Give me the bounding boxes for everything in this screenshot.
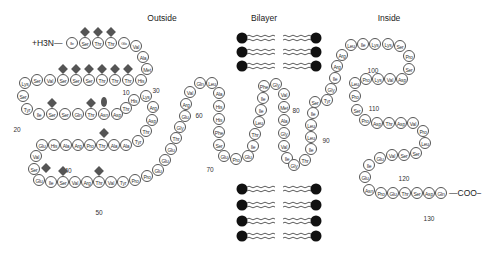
lipid-tail	[283, 49, 311, 51]
residue: Thr	[105, 37, 117, 49]
residue: Thr	[85, 108, 97, 120]
residue: Arg	[331, 60, 343, 72]
residue: Lys	[382, 38, 394, 50]
lipid-tail	[247, 186, 275, 188]
lipid-tail	[283, 233, 311, 235]
residue: Glu	[179, 110, 191, 122]
residue: Ala	[108, 139, 120, 151]
lipid-tail	[283, 35, 311, 37]
residue: Gln	[72, 108, 84, 120]
residue-number-label: 60	[195, 112, 202, 119]
residue: Glu	[387, 187, 399, 199]
residue: Glu	[374, 152, 386, 164]
residue: Glu	[159, 154, 171, 166]
residue: Arg	[72, 139, 84, 151]
residue: Ile	[45, 176, 57, 188]
lipid-head	[237, 216, 248, 227]
residue: Asp	[146, 114, 158, 126]
lipid-tail	[247, 67, 275, 69]
residue: His	[213, 113, 225, 125]
residue: Ser	[17, 90, 29, 102]
residue: Leu	[345, 39, 357, 51]
lipid-tail	[283, 67, 311, 69]
residue: Tyr	[132, 135, 144, 147]
residue: Leu	[419, 137, 431, 149]
lipid-head	[237, 184, 248, 195]
residue: Leu	[349, 77, 361, 89]
residue: Glx	[118, 37, 130, 49]
lipid-tail	[283, 63, 311, 65]
lipid-head	[237, 200, 248, 211]
residue: His	[48, 139, 60, 151]
residue: Ile	[307, 107, 319, 119]
residue: Val	[130, 40, 142, 52]
lipid-tail	[247, 202, 275, 204]
residue-number-label: 30	[152, 87, 159, 94]
residue: Ser	[83, 74, 95, 86]
residue: Ser	[411, 187, 423, 199]
residue: Ala	[213, 87, 225, 99]
residue: Asn	[363, 184, 375, 196]
residue: Lys	[140, 90, 152, 102]
lipid-head	[311, 184, 322, 195]
residue: Glu	[33, 174, 45, 186]
residue: Ser	[410, 147, 422, 159]
residue: Ile	[33, 108, 45, 120]
n-glycan-oval-icon	[101, 97, 107, 107]
residue: Ile	[255, 104, 267, 116]
residue: Glu	[165, 143, 177, 155]
residue: Met	[141, 63, 153, 75]
residue: Ile	[66, 37, 78, 49]
residue: Glu	[152, 164, 164, 176]
residue: Leu	[305, 119, 317, 131]
residue: Lys	[372, 73, 384, 85]
residue: Val	[384, 73, 396, 85]
residue: Pro	[375, 187, 387, 199]
residue: Ile	[357, 38, 369, 50]
lipid-tail	[247, 49, 275, 51]
residue-number-label: 100	[368, 67, 379, 74]
residue: Ser	[398, 149, 410, 161]
residue: Ser	[79, 37, 91, 49]
residue: Pro	[230, 153, 242, 165]
residue: Thr	[383, 117, 395, 129]
residue: Asp	[396, 73, 408, 85]
lipid-head	[311, 33, 322, 44]
residue: Ala	[278, 114, 290, 126]
residue: Pro	[417, 125, 429, 137]
lipid-tail	[247, 53, 275, 55]
residue-number-label: 90	[322, 137, 329, 144]
residue: Ala	[137, 51, 149, 63]
residue: Glu	[218, 150, 230, 162]
lipid-head	[237, 33, 248, 44]
residue: Pro	[141, 170, 153, 182]
residue: Asp	[371, 117, 383, 129]
lipid-tail	[247, 237, 275, 239]
residue: Pro	[359, 114, 371, 126]
residue: Ile	[305, 143, 317, 155]
lipid-tail	[247, 190, 275, 192]
residue: Gly	[174, 121, 186, 133]
residue: Val	[184, 86, 196, 98]
residue: Thr	[122, 74, 134, 86]
residue: Lys	[369, 38, 381, 50]
lipid-tail	[247, 222, 275, 224]
residue: Pro	[84, 139, 96, 151]
residue: Thr	[249, 128, 261, 140]
residue: Tyr	[321, 94, 333, 106]
lipid-tail	[283, 190, 311, 192]
residue: Pro	[349, 90, 361, 102]
residue: Val	[278, 140, 290, 152]
lipid-tail	[247, 206, 275, 208]
residue-number-label: 80	[292, 107, 299, 114]
residue: Ser	[57, 74, 69, 86]
lipid-tail	[283, 39, 311, 41]
residue-number-label: 70	[206, 166, 213, 173]
lipid-tail	[247, 35, 275, 37]
lipid-tail	[283, 202, 311, 204]
lipid-tail	[247, 63, 275, 65]
residue: Asp	[395, 117, 407, 129]
residue: His	[135, 74, 147, 86]
residue: Ser	[59, 108, 71, 120]
residue-number-label: 120	[399, 175, 410, 182]
